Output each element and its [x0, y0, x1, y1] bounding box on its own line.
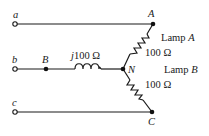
terminal-b-label: b [12, 54, 17, 65]
node-B-label: B [42, 54, 49, 65]
lamp-b-name-letter: B [191, 64, 198, 75]
terminal-a [13, 22, 17, 26]
node-C-label: C [148, 116, 156, 127]
resistor-lamp-b-icon [127, 80, 143, 100]
node-N-dot [121, 67, 126, 72]
circuit-diagram: a b c A B N C j100 Ω Lamp A 100 Ω Lamp B… [0, 0, 209, 136]
inductor-icon [75, 64, 101, 69]
terminal-a-label: a [13, 9, 18, 20]
node-A-dot [151, 22, 156, 27]
lamp-a-name-prefix: Lamp [161, 32, 188, 43]
lamp-b-name-prefix: Lamp [164, 64, 191, 75]
node-C-dot [150, 110, 155, 115]
lamp-a-name-letter: A [187, 32, 195, 43]
lamp-a-value: 100 Ω [145, 47, 171, 58]
terminal-c-label: c [12, 97, 17, 108]
lamp-b-value: 100 Ω [145, 79, 171, 90]
node-N-label: N [127, 64, 136, 75]
inductor-label-value: 100 Ω [74, 50, 100, 61]
node-A-label: A [147, 8, 155, 19]
node-B-dot [44, 67, 49, 72]
terminal-b [13, 67, 17, 71]
terminal-c [13, 110, 17, 114]
inductor-label: j100 Ω [69, 50, 100, 61]
lamp-a-name: Lamp A [161, 32, 195, 43]
lamp-b-name: Lamp B [164, 64, 198, 75]
